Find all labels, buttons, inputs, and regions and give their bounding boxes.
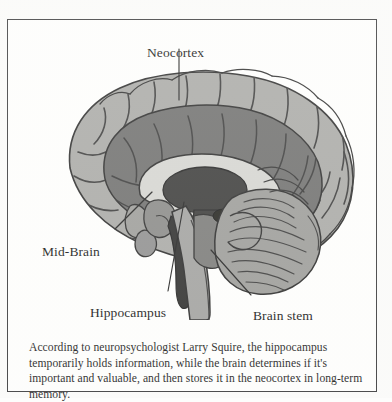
label-neocortex: Neocortex (147, 45, 204, 60)
figure-caption: According to neuropsychologist Larry Squ… (29, 340, 363, 402)
cerebellum (215, 189, 321, 294)
label-hippocampus: Hippocampus (90, 305, 166, 320)
figure-frame: Neocortex Mid-Brain Hippocampus Brain st… (7, 19, 377, 392)
caption-text: According to neuropsychologist Larry Squ… (29, 340, 363, 402)
label-mid-brain: Mid-Brain (42, 244, 100, 259)
label-brain-stem: Brain stem (253, 308, 313, 323)
brain-illustration (8, 20, 376, 320)
